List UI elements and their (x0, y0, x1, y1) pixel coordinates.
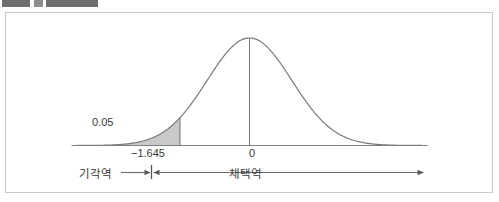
critical-value-tick-label: −1.645 (131, 147, 165, 159)
tail-area-label: 0.05 (92, 116, 113, 128)
mean-tick-label: 0 (249, 147, 255, 159)
toolbar-chip-1[interactable] (2, 0, 30, 7)
acceptance-region-label: 채택역 (229, 165, 262, 181)
normal-distribution-figure: 0.05 −1.645 0 기각역 채택역 (0, 0, 499, 202)
toolbar-remnant (0, 0, 150, 7)
toolbar-chip-3[interactable] (46, 0, 98, 7)
rejection-region-arrow (121, 170, 151, 175)
toolbar-chip-2[interactable] (34, 0, 43, 7)
rejection-region-label: 기각역 (79, 165, 112, 181)
acceptance-region-arrow (154, 170, 425, 175)
